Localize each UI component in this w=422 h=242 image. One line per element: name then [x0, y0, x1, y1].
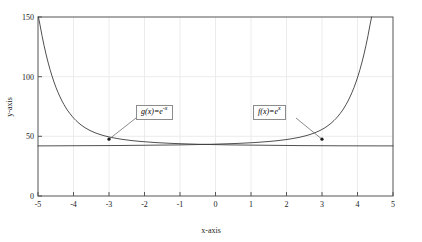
- x-tick-label-0: 0: [214, 200, 218, 209]
- x-tick-label--3: -3: [106, 200, 113, 209]
- annotation-f-exponent: x: [278, 105, 281, 111]
- annotation-g-base: g(x)=e: [141, 107, 163, 116]
- y-tick-label-150: 150: [14, 13, 34, 22]
- x-axis-title: x-axis: [201, 226, 221, 235]
- grid-lines: [38, 17, 393, 196]
- x-tick-label--5: -5: [35, 200, 42, 209]
- x-tick-label--4: -4: [70, 200, 77, 209]
- annotation-f-base: f(x)=e: [258, 107, 278, 116]
- annotation-g-exponent: -x: [163, 105, 168, 111]
- x-tick-label-3: 3: [320, 200, 324, 209]
- x-tick-label-4: 4: [356, 200, 360, 209]
- annotation-leader-g: [107, 118, 136, 141]
- x-tick-label-5: 5: [391, 200, 395, 209]
- y-tick-label-50: 50: [18, 132, 34, 141]
- annotation-label-g: g(x)=e-x: [136, 105, 173, 120]
- y-tick-label-100: 100: [14, 72, 34, 81]
- annotation-label-f: f(x)=ex: [253, 105, 286, 120]
- x-tick-label-2: 2: [285, 200, 289, 209]
- x-tick-label--2: -2: [141, 200, 148, 209]
- x-tick-label-1: 1: [249, 200, 253, 209]
- x-tick-label--1: -1: [177, 200, 184, 209]
- y-axis-title: y-axis: [5, 97, 14, 117]
- y-tick-label-0: 0: [18, 192, 34, 201]
